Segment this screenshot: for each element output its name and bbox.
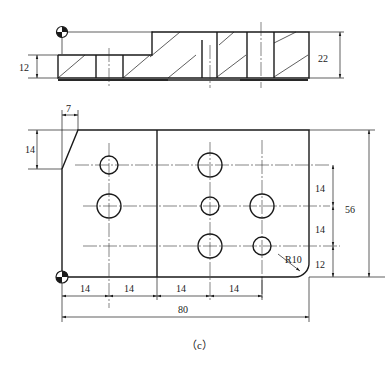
- dim-bottom-offset: 12: [315, 259, 325, 270]
- dim-chamfer-width: 7: [66, 103, 71, 114]
- dim-col-spacing-3: 14: [176, 283, 186, 294]
- dim-chamfer-height: 14: [25, 144, 35, 155]
- dim-row-spacing-1: 14: [315, 183, 325, 194]
- plan-view: 7 14 14 14 12 56 R10 14 14 14 14: [25, 103, 385, 322]
- front-view: 12 22: [19, 22, 344, 88]
- dim-total-height: 22: [318, 53, 328, 64]
- origin-symbol-icon: [56, 271, 68, 283]
- dim-row-spacing-2: 14: [315, 224, 325, 235]
- dim-lower-height: 12: [19, 62, 29, 73]
- figure-caption: （c）: [186, 339, 213, 351]
- dim-total-width: 80: [178, 304, 188, 315]
- dim-col-spacing-4: 14: [229, 283, 239, 294]
- dim-corner-radius: R10: [285, 254, 302, 265]
- dim-col-spacing-1: 14: [80, 283, 90, 294]
- origin-symbol-icon: [57, 27, 68, 38]
- dim-plan-total-height: 56: [345, 204, 355, 215]
- dim-col-spacing-2: 14: [124, 283, 134, 294]
- holes: [97, 153, 274, 258]
- technical-drawing: 12 22: [0, 0, 392, 368]
